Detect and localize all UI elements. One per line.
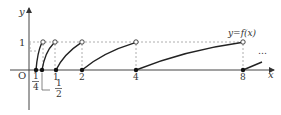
y-axis-label: y: [18, 6, 25, 17]
x-tick-quarter-num: 1: [33, 71, 39, 81]
x-tick-2: 2: [79, 72, 85, 82]
x-tick-half-den: 2: [56, 89, 62, 99]
x-tick-1: 1: [53, 72, 59, 82]
segment-half-to-one: [42, 44, 54, 71]
continuation-ellipsis: …: [258, 46, 267, 56]
x-tick-8: 8: [240, 72, 246, 82]
origin-label: O: [18, 70, 26, 81]
segment-after-eight: [243, 62, 262, 70]
x-axis-label: x: [268, 69, 274, 80]
half-label-leader: [42, 73, 50, 90]
x-tick-quarter-den: 4: [33, 82, 39, 92]
dashed-bracket: [30, 43, 36, 51]
segment-two-to-four: [82, 43, 135, 70]
curve-segments: [36, 43, 262, 71]
segment-quarter-to-half: [36, 44, 42, 71]
function-graph: y x O 1 1 4 1 2 1 2 4 8 y=f(x) …: [0, 0, 281, 115]
x-tick-4: 4: [133, 72, 139, 82]
function-label: y=f(x): [227, 28, 257, 38]
y-tick-1: 1: [19, 37, 25, 48]
segment-one-to-two: [56, 43, 81, 70]
segment-four-to-eight: [136, 43, 242, 71]
graph-svg: y x O 1 1 4 1 2 1 2 4 8 y=f(x) …: [0, 0, 281, 115]
